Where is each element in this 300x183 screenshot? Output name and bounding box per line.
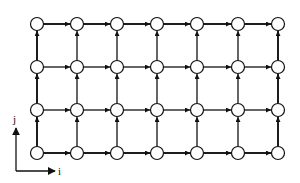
grid-node	[191, 147, 204, 160]
grid-node	[232, 147, 245, 160]
edges-layer	[37, 24, 278, 153]
grid-node	[151, 147, 164, 160]
i-axis-label: i	[58, 165, 61, 177]
j-axis-label: j	[12, 113, 16, 125]
grid-node	[272, 61, 285, 74]
grid-node	[191, 61, 204, 74]
grid-node	[191, 104, 204, 117]
grid-node	[232, 18, 245, 31]
grid-node	[111, 147, 124, 160]
grid-node	[151, 61, 164, 74]
grid-node	[111, 18, 124, 31]
grid-node	[31, 104, 44, 117]
grid-node	[111, 104, 124, 117]
grid-node	[31, 18, 44, 31]
grid-node	[71, 147, 84, 160]
grid-node	[191, 18, 204, 31]
grid-node	[31, 61, 44, 74]
grid-graph-diagram: j i	[0, 0, 300, 183]
grid-node	[71, 18, 84, 31]
grid-node	[151, 104, 164, 117]
grid-node	[272, 18, 285, 31]
grid-node	[71, 61, 84, 74]
grid-node	[71, 104, 84, 117]
grid-node	[232, 104, 245, 117]
grid-node	[151, 18, 164, 31]
grid-node	[272, 147, 285, 160]
grid-node	[232, 61, 245, 74]
grid-node	[272, 104, 285, 117]
grid-node	[111, 61, 124, 74]
grid-node	[31, 147, 44, 160]
